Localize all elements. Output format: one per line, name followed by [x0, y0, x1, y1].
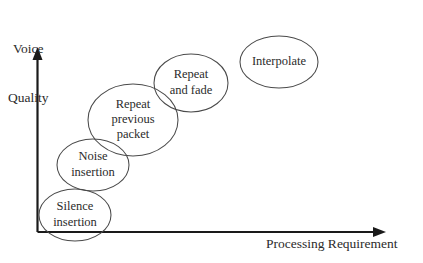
bubble-label-line: insertion: [71, 165, 115, 179]
diagram-canvas: SilenceinsertionNoiseinsertionRepeatprev…: [0, 0, 423, 263]
diagram-svg: SilenceinsertionNoiseinsertionRepeatprev…: [0, 0, 423, 263]
bubble-silence-insertion: Silenceinsertion: [39, 189, 111, 241]
y-axis-title-line1: Voice: [8, 41, 49, 57]
bubble-label: Silenceinsertion: [53, 199, 97, 228]
bubble-label-line: Silence: [57, 199, 94, 213]
bubble-label: Repeatand fade: [170, 67, 213, 96]
bubble-label: Interpolate: [252, 54, 307, 68]
bubble-label-line: Interpolate: [252, 54, 307, 68]
bubble-interpolate: Interpolate: [240, 36, 318, 88]
bubble-repeat-and-fade: Repeatand fade: [154, 54, 228, 112]
bubbles-group: SilenceinsertionNoiseinsertionRepeatprev…: [39, 36, 318, 241]
x-axis-title: Processing Requirement: [266, 236, 398, 252]
y-axis-title: Voice Quality: [8, 8, 49, 140]
bubble-label-line: previous: [111, 112, 154, 126]
bubble-label: Repeatpreviouspacket: [111, 97, 154, 142]
bubble-label-line: and fade: [170, 83, 213, 97]
bubble-label-line: Repeat: [174, 67, 209, 81]
bubble-label-line: insertion: [53, 215, 97, 229]
bubble-label-line: Repeat: [116, 97, 151, 111]
bubble-label-line: packet: [117, 127, 150, 141]
bubble-label-line: Noise: [78, 149, 108, 163]
y-axis-title-line2: Quality: [8, 90, 49, 106]
